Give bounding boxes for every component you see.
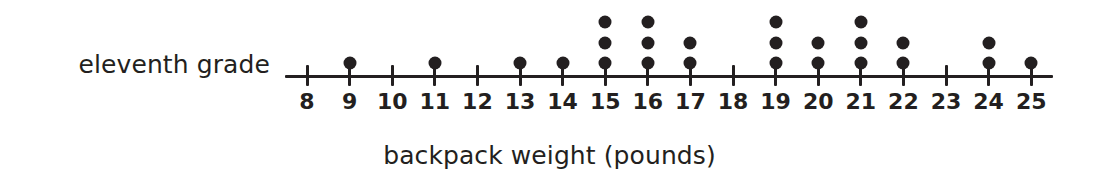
data-dot: [854, 16, 867, 29]
x-axis-tick-label: 20: [803, 90, 834, 114]
data-dot: [812, 57, 825, 70]
data-dot: [982, 36, 995, 49]
x-axis-tick-label: 25: [1016, 90, 1047, 114]
data-dot: [428, 57, 441, 70]
data-dot: [897, 57, 910, 70]
x-axis-tick: [391, 65, 394, 86]
x-axis-tick-label: 17: [675, 90, 706, 114]
x-axis-tick: [476, 65, 479, 86]
x-axis-tick: [306, 65, 309, 86]
data-dot: [769, 57, 782, 70]
data-dot: [599, 36, 612, 49]
x-axis-tick-label: 14: [547, 90, 578, 114]
data-dot: [854, 57, 867, 70]
x-axis-tick-label: 11: [419, 90, 450, 114]
x-axis-tick-label: 19: [760, 90, 791, 114]
x-axis-tick-label: 24: [973, 90, 1004, 114]
data-dot: [641, 57, 654, 70]
x-axis-title: backpack weight (pounds): [0, 140, 1099, 172]
x-axis-tick-label: 15: [590, 90, 621, 114]
data-dot: [641, 36, 654, 49]
data-dot: [982, 57, 995, 70]
data-dot: [812, 36, 825, 49]
data-dot: [599, 16, 612, 29]
x-axis-tick-label: 9: [342, 90, 357, 114]
x-axis-tick: [945, 65, 948, 86]
x-axis-tick-label: 10: [377, 90, 408, 114]
x-axis-tick-label: 23: [931, 90, 962, 114]
x-axis-tick: [732, 65, 735, 86]
x-axis-tick-label: 16: [632, 90, 663, 114]
data-dot: [556, 57, 569, 70]
data-dot: [641, 16, 654, 29]
data-dot: [684, 36, 697, 49]
data-dot: [599, 57, 612, 70]
x-axis-tick-label: 21: [845, 90, 876, 114]
data-dot: [514, 57, 527, 70]
data-dot: [769, 16, 782, 29]
data-dot: [343, 57, 356, 70]
data-dot: [854, 36, 867, 49]
data-dot: [769, 36, 782, 49]
data-dot: [684, 57, 697, 70]
x-axis-tick-label: 22: [888, 90, 919, 114]
series-row-label: eleventh grade: [30, 50, 270, 80]
data-dot: [897, 36, 910, 49]
data-dot: [1025, 57, 1038, 70]
x-axis-tick-label: 18: [718, 90, 749, 114]
dot-plot-figure: eleventh grade backpack weight (pounds) …: [0, 0, 1099, 192]
x-axis-tick-label: 8: [299, 90, 314, 114]
x-axis-tick-label: 12: [462, 90, 493, 114]
x-axis-tick-label: 13: [505, 90, 536, 114]
x-axis-line: [285, 75, 1053, 78]
